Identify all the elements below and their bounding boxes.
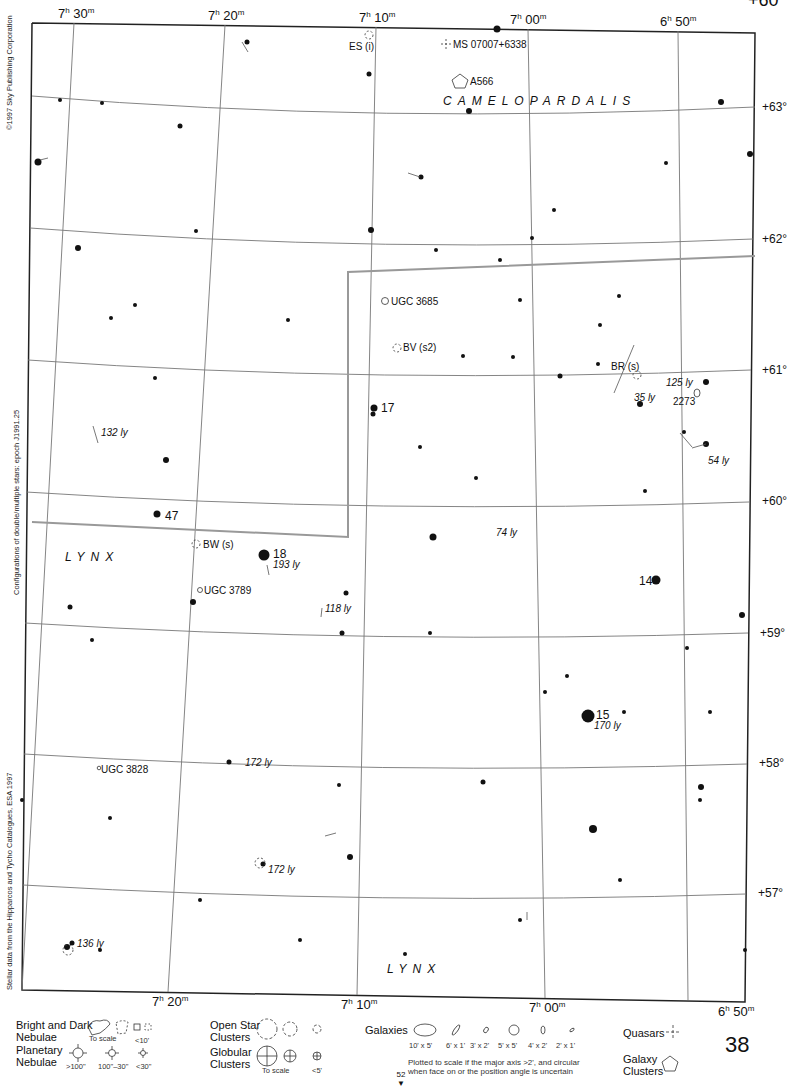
- label-ugc3828: UGC 3828: [101, 764, 148, 775]
- star-chart-map: [0, 0, 800, 1091]
- label-ugc3789: UGC 3789: [204, 585, 251, 596]
- legend-planetary-size-2: 100"–30": [98, 1062, 128, 1071]
- legend-globular-to-scale: To scale: [262, 1066, 290, 1075]
- a566-cluster-symbol: [452, 74, 468, 88]
- legend-globular-title: GlobularClusters: [210, 1046, 252, 1070]
- galaxy-cluster-icon: [661, 1055, 679, 1073]
- ra-bottom-7h10: 7h 10m: [341, 997, 377, 1012]
- legend-planetary-title: PlanetaryNebulae: [16, 1044, 62, 1068]
- dec-label-58: +58°: [759, 756, 784, 770]
- quasar-symbol: [441, 39, 451, 49]
- dec-gridlines: [23, 96, 755, 898]
- legend-nebulae-to-scale: To scale: [89, 1034, 117, 1043]
- copyright-credit: ©1997 Sky Publishing Corporation: [5, 15, 14, 130]
- dec-label-63: +63°: [762, 100, 787, 114]
- ra-top-7h00: 7h 00m: [510, 12, 546, 27]
- legend-open-clusters-title: Open StarClusters: [210, 1019, 260, 1043]
- ra-bottom-7h00: 7h 00m: [529, 1000, 565, 1015]
- label-172ly-a: 172 ly: [245, 757, 272, 768]
- stars: [20, 26, 753, 957]
- label-ngc2273: 2273: [673, 396, 695, 407]
- constellation-camelopardalis: CAMELOPARDALIS: [443, 94, 636, 108]
- page-reference[interactable]: 52▼: [391, 1070, 411, 1088]
- configurations-credit: Configurations of double/multiple stars:…: [12, 410, 21, 595]
- label-193ly: 193 ly: [273, 559, 300, 570]
- bv-symbol: [393, 344, 401, 352]
- ra-top-6h50: 6h 50m: [660, 14, 696, 29]
- ra-bottom-7h20: 7h 20m: [152, 994, 188, 1009]
- chart-number: 38: [725, 1032, 749, 1058]
- chart-frame: [22, 23, 755, 1002]
- ra-top-7h10: 7h 10m: [359, 10, 395, 25]
- bw-symbol: [192, 540, 200, 548]
- label-star-14: 14: [639, 574, 652, 588]
- dec-label-59: +59°: [760, 626, 785, 640]
- label-136ly: 136 ly: [77, 938, 104, 949]
- legend-galaxy-clusters-title: GalaxyClusters: [623, 1053, 663, 1077]
- dec-label-57: +57°: [758, 886, 783, 900]
- label-118ly: 118 ly: [325, 603, 351, 614]
- legend-galaxies-title: Galaxies: [365, 1024, 408, 1036]
- label-bw: BW (s): [203, 539, 234, 550]
- label-54ly: 54 ly: [708, 455, 729, 466]
- globular-cluster-icon: [255, 1044, 325, 1068]
- planetary-nebula-icon: [68, 1043, 152, 1063]
- legend-nebulae-title: Bright and DarkNebulae: [16, 1019, 92, 1043]
- label-125ly: 125 ly: [666, 377, 693, 388]
- legend-galaxy-size-5: 4' x 2': [528, 1041, 547, 1050]
- legend-galaxy-note: Plotted to scale if the major axis >2', …: [408, 1058, 580, 1076]
- label-35ly: 35 ly: [634, 392, 655, 403]
- open-cluster-icon: [255, 1017, 325, 1041]
- es-cluster-symbol: [365, 31, 373, 39]
- br-symbol: [633, 371, 641, 379]
- label-172ly-b: 172 ly: [268, 864, 295, 875]
- dec-label-60: +60°: [762, 494, 787, 508]
- label-132ly: 132 ly: [101, 427, 128, 438]
- label-es: ES (i): [349, 41, 374, 52]
- label-star-17: 17: [381, 401, 394, 415]
- legend-planetary-size-3: <30": [136, 1062, 151, 1071]
- ra-top-7h30: 7h 30m: [58, 6, 94, 21]
- label-br: BR (s): [611, 361, 639, 372]
- label-quasar-ms07007: MS 07007+6338: [453, 39, 527, 50]
- stellar-data-credit: Stellar data from the Hipparcos and Tych…: [5, 773, 14, 991]
- ra-bottom-6h50: 6h 50m: [718, 1004, 754, 1019]
- legend-quasars-title: Quasars: [623, 1027, 665, 1039]
- legend-galaxy-size-3: 3' x 2': [470, 1041, 489, 1050]
- dec-label-62: +62°: [762, 232, 787, 246]
- label-star-47: 47: [165, 509, 178, 523]
- legend-globular-small: <5': [312, 1066, 322, 1075]
- constellation-lynx-lower: LYNX: [387, 962, 441, 976]
- ugc3789-symbol: [198, 588, 203, 593]
- constellation-lynx-upper: LYNX: [65, 550, 119, 564]
- legend-galaxy-size-6: 2' x 1': [556, 1041, 575, 1050]
- label-a566: A566: [470, 76, 493, 87]
- down-arrow-icon: ▼: [397, 1079, 405, 1088]
- legend-galaxy-size-1: 10' x 5': [409, 1041, 432, 1050]
- galaxy-icon: [405, 1020, 581, 1040]
- ugc3685-symbol: [382, 298, 389, 305]
- label-74ly: 74 ly: [496, 527, 517, 538]
- label-ugc3685: UGC 3685: [391, 296, 438, 307]
- dec-label-61: +61°: [762, 363, 787, 377]
- label-170ly: 170 ly: [594, 720, 621, 731]
- label-bv: BV (s2): [403, 342, 436, 353]
- legend-galaxy-size-2: 6' x 1': [446, 1041, 465, 1050]
- ra-gridlines: [22, 23, 688, 1000]
- ra-top-7h20: 7h 20m: [208, 8, 244, 23]
- quasar-icon: [665, 1024, 681, 1040]
- legend-planetary-size-1: >100": [66, 1062, 86, 1071]
- legend-galaxy-size-4: 5' x 5': [498, 1041, 517, 1050]
